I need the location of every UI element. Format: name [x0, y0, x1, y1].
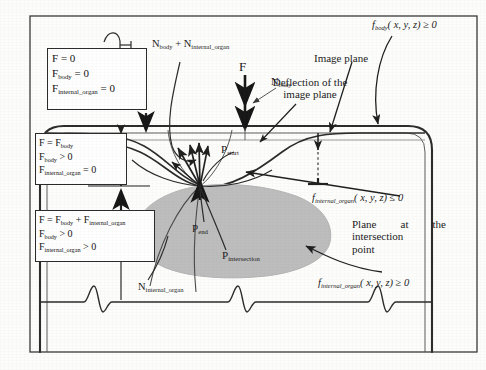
box0-line3-rest: = 0 [98, 82, 115, 94]
normal-sum-sub1: body [160, 43, 173, 50]
leader-f-body [376, 36, 392, 124]
force-f-text: F [239, 59, 246, 74]
box2-line1-sub: body [61, 219, 73, 226]
box2-line3-main: F [39, 241, 45, 252]
box0-line2-sub: body [58, 73, 72, 80]
deflection-indicator [308, 133, 328, 184]
f-internal-le-rest: ( x, y, z) ≤ 0 [354, 192, 403, 203]
box1-line3-main: F [39, 164, 45, 175]
plane-word-4: intersection [352, 230, 446, 242]
p-end-sub: end [198, 228, 208, 235]
normal-sum-plus: + N [173, 38, 192, 49]
box0-line3-sub: internal_organ [58, 88, 98, 95]
label-f-body-expr: fbody( x, y, z) ≥ 0 [372, 19, 437, 31]
box2-line1-sub2: internal_organ [89, 219, 125, 226]
box1-line2-rest: > 0 [57, 151, 73, 162]
box2-line3-sub: internal_organ [45, 246, 81, 253]
normal-sum-sub2: internal_organ [191, 43, 229, 50]
box1-line3-sub: internal_organ [45, 169, 81, 176]
figure-canvas: F = 0 Fbody = 0 Finternal_organ = 0 F = … [0, 0, 486, 370]
box0-line1-rest: = 0 [58, 52, 75, 64]
leader-deflection [260, 104, 296, 142]
label-force-f: F [239, 60, 246, 75]
deflection-line-2: image plane [268, 88, 352, 100]
f-body-sub: body [375, 24, 388, 31]
label-normal-sum: Nbody + Ninternal_organ [152, 38, 229, 50]
f-body-rest: ( x, y, z) ≥ 0 [388, 19, 437, 30]
force-box-body-text: F = Fbody Fbody > 0 Finternal_organ = 0 [39, 136, 96, 177]
image-plane-text: Image plane [314, 52, 368, 64]
force-box-combined-text: F = Fbody + Finternal_organ Fbody > 0 Fi… [39, 213, 125, 254]
box2-line3-rest: > 0 [81, 241, 97, 252]
box2-line1-mid: + F [73, 214, 89, 225]
label-normal-internal: Ninternal_organ [138, 281, 183, 293]
box2-line1-main: F = F [39, 214, 61, 225]
box2-line2-rest: > 0 [57, 228, 73, 239]
normal-internal-sub: internal_organ [146, 286, 184, 293]
plane-word-1: Plane [352, 218, 376, 230]
box0-line2-rest: = 0 [72, 67, 89, 79]
label-image-plane: Image plane [314, 52, 368, 64]
label-f-internal-le: finternal_organ( x, y, z) ≤ 0 [312, 192, 403, 204]
normal-internal-main: N [138, 281, 146, 292]
box1-line1-main: F = F [39, 137, 61, 148]
internal-organ-region [136, 184, 330, 277]
label-p-intersection: Pintersection [222, 249, 260, 261]
leader-p-start [203, 152, 234, 181]
normal-sum-main1: N [152, 38, 160, 49]
plane-word-5: point [352, 243, 446, 255]
p-intersection-sub: intersection [228, 255, 260, 262]
box2-line2-main: F [39, 228, 45, 239]
p-start-sub: start [227, 149, 239, 156]
force-box-zero-text: F = 0 Fbody = 0 Finternal_organ = 0 [52, 51, 115, 96]
f-internal-ge-rest: ( x, y, z) ≥ 0 [360, 277, 409, 288]
bottom-boundary-break-line [40, 286, 432, 312]
plane-word-2: at [401, 218, 409, 230]
box1-line3-rest: = 0 [81, 164, 97, 175]
label-f-internal-ge: finternal_organ( x, y, z) ≥ 0 [318, 277, 409, 289]
label-p-end: Pend [192, 222, 208, 234]
f-internal-ge-sub: internal_organ [321, 282, 360, 289]
label-plane-at-intersection: Plane at the intersection point [352, 218, 446, 255]
box2-line2-sub: body [45, 233, 57, 240]
leader-normal-sum [170, 62, 196, 161]
label-p-start: Pstart [221, 143, 239, 155]
deflection-line-1: Deflection of the [268, 76, 352, 88]
plane-word-3: the [433, 218, 446, 230]
box1-line2-sub: body [45, 156, 57, 163]
f-internal-le-sub: internal_organ [315, 197, 354, 204]
label-deflection: Deflection of the image plane [268, 76, 352, 101]
box1-line1-sub: body [61, 142, 73, 149]
box1-line2-main: F [39, 151, 45, 162]
